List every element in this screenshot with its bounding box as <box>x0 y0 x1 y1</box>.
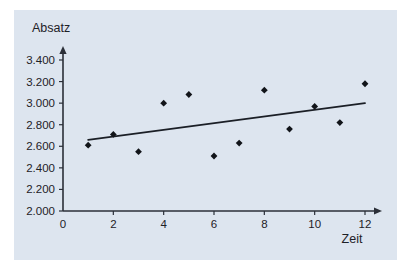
x-tick-label: 12 <box>359 218 372 230</box>
y-tick-label: 3.200 <box>26 76 55 88</box>
x-tick-label: 6 <box>211 218 217 230</box>
y-tick-label: 2.200 <box>26 183 55 195</box>
x-tick-label: 8 <box>261 218 267 230</box>
y-tick-label: 2.400 <box>26 162 55 174</box>
y-tick-label: 2.000 <box>26 205 55 217</box>
x-tick-label: 4 <box>160 218 167 230</box>
data-point <box>336 119 343 126</box>
x-tick-label: 10 <box>308 218 321 230</box>
data-point <box>135 148 142 155</box>
data-points <box>85 80 369 159</box>
data-point <box>211 153 218 160</box>
y-axis-title: Absatz <box>32 21 70 35</box>
y-axis-tick-labels: 2.0002.2002.4002.6002.8003.0003.2003.400 <box>26 54 55 217</box>
data-point <box>85 142 92 149</box>
x-axis-tick-labels: 024681012 <box>60 218 372 230</box>
data-point <box>261 87 268 94</box>
y-axis-arrow-icon <box>59 46 66 54</box>
y-tick-label: 3.400 <box>26 54 55 66</box>
data-point <box>286 126 293 133</box>
scatter-chart: 2.0002.2002.4002.6002.8003.0003.2003.400… <box>0 0 410 269</box>
y-tick-label: 3.000 <box>26 97 55 109</box>
data-point <box>362 80 369 87</box>
chart-figure: 2.0002.2002.4002.6002.8003.0003.2003.400… <box>0 0 410 269</box>
x-axis-arrow-icon <box>374 207 382 214</box>
data-point <box>236 140 243 147</box>
x-tick-label: 2 <box>110 218 116 230</box>
trend-line <box>88 103 365 140</box>
x-axis-title: Zeit <box>342 232 363 246</box>
y-tick-label: 2.800 <box>26 119 55 131</box>
data-point <box>160 100 167 107</box>
y-tick-label: 2.600 <box>26 140 55 152</box>
data-point <box>185 91 192 98</box>
x-tick-label: 0 <box>60 218 66 230</box>
